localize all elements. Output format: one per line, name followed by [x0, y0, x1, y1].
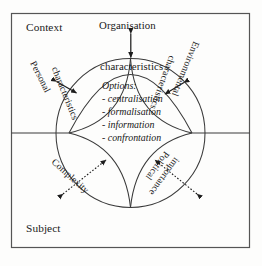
- options-item-information: - information: [102, 118, 163, 131]
- options-item-formalisation: - formalisation: [102, 105, 163, 118]
- options-heading: Options:: [102, 79, 163, 92]
- diagram-canvas: Context Subject Organisation characteris…: [0, 0, 262, 266]
- node-label-organisation: Organisation: [99, 19, 156, 32]
- corner-label-subject: Subject: [26, 222, 61, 235]
- options-item-confrontation: - confrontation: [102, 131, 163, 144]
- options-block: Options: - centralisation - formalisatio…: [102, 79, 163, 144]
- options-item-centralisation: - centralisation: [102, 92, 163, 105]
- corner-label-context: Context: [26, 21, 62, 34]
- node-label-top-characteristics: characteristics: [100, 60, 163, 73]
